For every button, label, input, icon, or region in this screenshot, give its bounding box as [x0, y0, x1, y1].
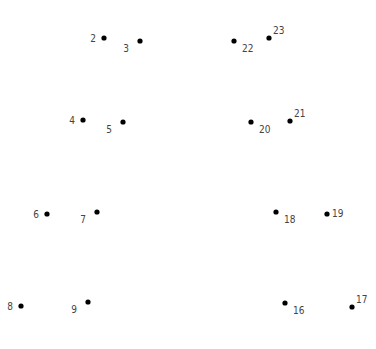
dot-number-label: 2: [90, 33, 96, 44]
dot-marker[interactable]: [44, 211, 49, 216]
dot-number-label: 7: [80, 214, 86, 225]
dot-number-label: 9: [71, 304, 77, 315]
dot-number-label: 4: [69, 115, 75, 126]
dot-marker[interactable]: [282, 300, 287, 305]
dot-21[interactable]: 21: [287, 108, 305, 124]
dot-7[interactable]: 7: [80, 209, 99, 225]
dot-marker[interactable]: [18, 303, 23, 308]
dot-18[interactable]: 18: [273, 209, 295, 225]
dot-number-label: 21: [294, 108, 305, 119]
dot-puzzle-canvas: 234567891617181920212223: [0, 0, 376, 349]
dot-number-label: 16: [293, 305, 305, 316]
dot-3[interactable]: 3: [123, 38, 142, 54]
dot-16[interactable]: 16: [282, 300, 304, 316]
dot-4[interactable]: 4: [69, 115, 85, 126]
dot-number-label: 8: [7, 301, 13, 312]
dot-20[interactable]: 20: [248, 119, 270, 135]
dot-marker[interactable]: [273, 209, 278, 214]
dot-marker[interactable]: [349, 304, 354, 309]
dot-marker[interactable]: [120, 119, 125, 124]
dot-marker[interactable]: [248, 119, 253, 124]
dot-23[interactable]: 23: [266, 25, 284, 41]
dot-marker[interactable]: [94, 209, 99, 214]
dot-marker[interactable]: [266, 35, 271, 40]
dot-marker[interactable]: [85, 299, 90, 304]
dot-number-label: 17: [356, 294, 367, 305]
dot-marker[interactable]: [101, 35, 106, 40]
dot-number-label: 20: [259, 124, 271, 135]
dot-marker[interactable]: [287, 118, 292, 123]
dot-9[interactable]: 9: [71, 299, 90, 315]
dot-marker[interactable]: [80, 117, 85, 122]
dot-number-label: 3: [123, 43, 129, 54]
dot-6[interactable]: 6: [33, 209, 49, 220]
dot-8[interactable]: 8: [7, 301, 23, 312]
dot-marker[interactable]: [324, 211, 329, 216]
dot-5[interactable]: 5: [106, 119, 125, 135]
dot-19[interactable]: 19: [324, 208, 343, 219]
dot-22[interactable]: 22: [231, 38, 253, 54]
dot-17[interactable]: 17: [349, 294, 367, 310]
dot-marker[interactable]: [231, 38, 236, 43]
dot-2[interactable]: 2: [90, 33, 106, 44]
dot-marker[interactable]: [137, 38, 142, 43]
dot-number-label: 5: [106, 124, 112, 135]
dot-number-label: 23: [273, 25, 284, 36]
dot-number-label: 18: [284, 214, 296, 225]
dot-number-label: 6: [33, 209, 39, 220]
dot-number-label: 19: [332, 208, 344, 219]
dot-number-label: 22: [242, 43, 253, 54]
